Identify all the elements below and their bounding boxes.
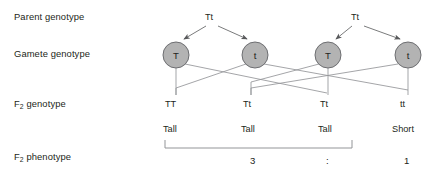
f2-phenotype-1: Tall: [163, 124, 177, 134]
f2-genotype-4: tt: [400, 99, 405, 109]
gamete-label-1: T: [166, 50, 186, 61]
arrow-parent-left-to-gamete-1: [184, 26, 206, 39]
ratio-separator: :: [326, 155, 329, 166]
gamete-circles: [163, 42, 421, 68]
row-label-gamete-genotype: Gamete genotype: [14, 49, 90, 58]
f2-genotype-2: Tt: [243, 99, 251, 109]
fertilisation-lines: [176, 64, 408, 95]
line-gamete2-to-f2-1: [176, 64, 246, 95]
f2-phenotype-3: Tall: [318, 124, 332, 134]
line-gamete4-to-f2-2: [251, 64, 398, 95]
parent-left-branches: [184, 26, 247, 39]
f2-phenotype-2: Tall: [241, 124, 255, 134]
line-gamete2-to-f2-4: [264, 64, 408, 90]
f2-genotype-3: Tt: [320, 99, 328, 109]
parent-right-branches: [336, 26, 400, 39]
arrow-parent-right-to-gamete-3: [336, 26, 352, 39]
ratio-short-count: 1: [404, 155, 409, 166]
f2-genotype-1: TT: [165, 99, 176, 109]
line-gamete3-to-f2-2: [251, 64, 319, 95]
ratio-bracket: [165, 140, 352, 148]
ratio-tall-count: 3: [250, 155, 255, 166]
f2-phenotype-suffix: phenotype: [24, 151, 71, 162]
row-label-f2-genotype: F2 genotype: [14, 99, 66, 111]
gamete-label-2: t: [245, 50, 265, 61]
arrow-parent-right-to-gamete-4: [364, 26, 400, 39]
f2-genotype-suffix: genotype: [24, 98, 66, 109]
ratio-bracket-path: [165, 140, 352, 148]
parent-genotype-right: Tt: [351, 12, 359, 22]
parent-genotype-left: Tt: [205, 12, 213, 22]
row-label-f2-phenotype: F2 phenotype: [14, 152, 71, 164]
gamete-label-4: t: [398, 50, 418, 61]
arrow-parent-left-to-gamete-2: [218, 26, 247, 39]
f2-phenotype-4: Short: [392, 124, 414, 134]
genetics-cross-diagram: Parent genotype Gamete genotype F2 genot…: [0, 0, 439, 183]
gamete-label-3: T: [318, 50, 338, 61]
row-label-parent-genotype: Parent genotype: [14, 12, 84, 21]
